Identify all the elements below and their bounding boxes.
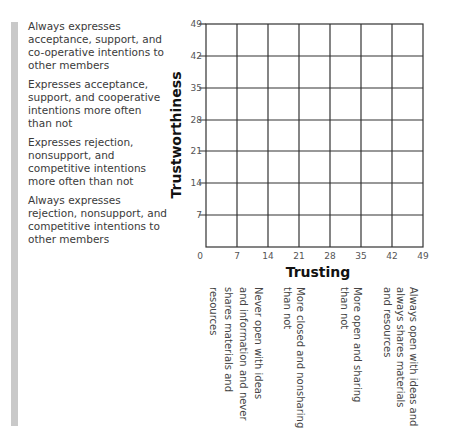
x-tick-35: 35 xyxy=(355,251,366,261)
y-tick-35: 35 xyxy=(186,83,202,93)
y-tick-49: 49 xyxy=(186,19,202,29)
descriptor-line: resources xyxy=(207,287,220,335)
descriptor-line: than not xyxy=(338,287,351,329)
x-tick-42: 42 xyxy=(386,251,397,261)
x-axis-label: Trusting xyxy=(286,264,351,280)
x-tick-0: 0 xyxy=(197,251,203,261)
descriptor-line: than not xyxy=(281,287,294,329)
y-tick-42: 42 xyxy=(186,51,202,61)
descriptor-line: Never open with ideas xyxy=(252,287,265,399)
y-tick-14: 14 xyxy=(186,178,202,188)
x-tick-49: 49 xyxy=(417,251,428,261)
descriptor-line: and information and never xyxy=(237,287,250,421)
descriptor-line: and resources xyxy=(381,287,394,357)
descriptor-line: More closed and nonsharing xyxy=(294,287,307,428)
y-tick-7: 7 xyxy=(186,210,202,220)
y-tick-21: 21 xyxy=(186,146,202,156)
y-tick-28: 28 xyxy=(186,115,202,125)
x-tick-21: 21 xyxy=(293,251,304,261)
x-tick-14: 14 xyxy=(262,251,273,261)
x-tick-7: 7 xyxy=(234,251,240,261)
descriptor-line: More open and sharing xyxy=(351,287,364,402)
descriptor-line: Always open with ideas and xyxy=(407,287,420,426)
x-tick-28: 28 xyxy=(324,251,335,261)
descriptor-line: always shares materials xyxy=(394,287,407,408)
descriptor-line: shares materials and xyxy=(222,287,235,392)
